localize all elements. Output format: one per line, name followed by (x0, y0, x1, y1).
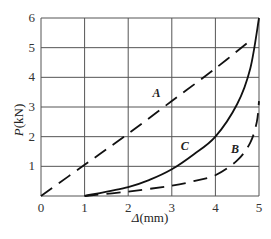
y-tick-label: 3 (29, 99, 36, 114)
x-tick-label: 1 (81, 200, 88, 215)
x-tick-label: 3 (169, 200, 176, 215)
x-tick-label: 5 (256, 200, 263, 215)
curve-labels: ABC (152, 86, 239, 156)
tick-labels: 012345123456 (29, 10, 263, 215)
x-tick-label: 0 (38, 200, 45, 215)
y-tick-label: 1 (29, 158, 36, 173)
y-tick-label: 6 (29, 10, 36, 25)
y-axis-label: P(kN) (11, 104, 26, 138)
curve-label-c: C (181, 139, 190, 153)
curve-label-a: A (152, 86, 161, 100)
curve-label-b: B (230, 142, 239, 156)
y-tick-label: 2 (29, 129, 36, 144)
x-axis-label: Δ(mm) (131, 210, 169, 225)
x-tick-label: 2 (125, 200, 132, 215)
y-tick-label: 5 (29, 40, 36, 55)
x-tick-label: 4 (212, 200, 219, 215)
y-tick-label: 4 (29, 69, 36, 84)
load-displacement-chart: 012345123456 ABC Δ(mm) P(kN) (0, 0, 271, 239)
